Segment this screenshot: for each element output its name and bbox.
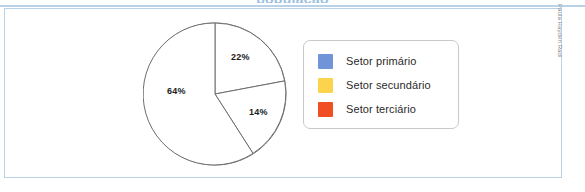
figure-container: população Paula Hayden Radi 22% 64% 14% … (0, 0, 585, 192)
legend-item-setor-secundario: Setor secundário (318, 73, 458, 97)
pie-label-primario: 22% (231, 52, 250, 62)
cut-off-title: população (0, 0, 585, 3)
legend-label-primario: Setor primário (346, 55, 416, 67)
pie-label-terciario: 64% (167, 86, 186, 96)
chart-legend: Setor primário Setor secundário Setor te… (303, 40, 459, 129)
legend-swatch-icon-secundario (318, 78, 333, 93)
legend-item-setor-primario: Setor primário (318, 49, 458, 73)
pie-chart (143, 22, 287, 166)
legend-swatch-icon-terciario (318, 102, 333, 117)
legend-swatch-icon-primario (318, 54, 333, 69)
image-credit: Paula Hayden Radi (554, 4, 565, 94)
legend-label-secundario: Setor secundário (346, 79, 431, 91)
top-rule (0, 5, 585, 7)
legend-item-setor-terciario: Setor terciário (318, 97, 458, 121)
pie-label-secundario: 14% (249, 107, 268, 117)
legend-label-terciario: Setor terciário (346, 103, 416, 115)
